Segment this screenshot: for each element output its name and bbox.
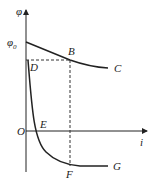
point-g-label: G — [113, 161, 121, 172]
point-f-label: F — [66, 169, 73, 180]
phi0-label: φ0 — [7, 37, 17, 51]
origin-label: O — [17, 126, 25, 137]
i-axis-label: i — [140, 137, 143, 148]
phi0-subscript: 0 — [13, 43, 17, 51]
curve-phi0-b-c — [26, 42, 108, 68]
point-b-label: B — [68, 46, 75, 57]
curve-d-e-f-g — [28, 60, 108, 166]
diagram-canvas — [0, 0, 158, 190]
point-d-label: D — [30, 62, 38, 73]
point-e-label: E — [40, 119, 47, 130]
point-c-label: C — [114, 63, 121, 74]
phi-axis-label: φ — [16, 6, 22, 17]
